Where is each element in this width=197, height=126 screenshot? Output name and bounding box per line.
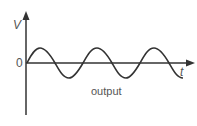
caption: output (91, 85, 122, 97)
origin-label: 0 (16, 56, 23, 70)
y-axis-arrow-icon (23, 11, 30, 20)
x-axis-arrow-icon (186, 60, 195, 67)
x-axis-label: t (180, 65, 183, 79)
waveform-diagram (0, 0, 197, 126)
y-axis-label: V (13, 18, 21, 32)
